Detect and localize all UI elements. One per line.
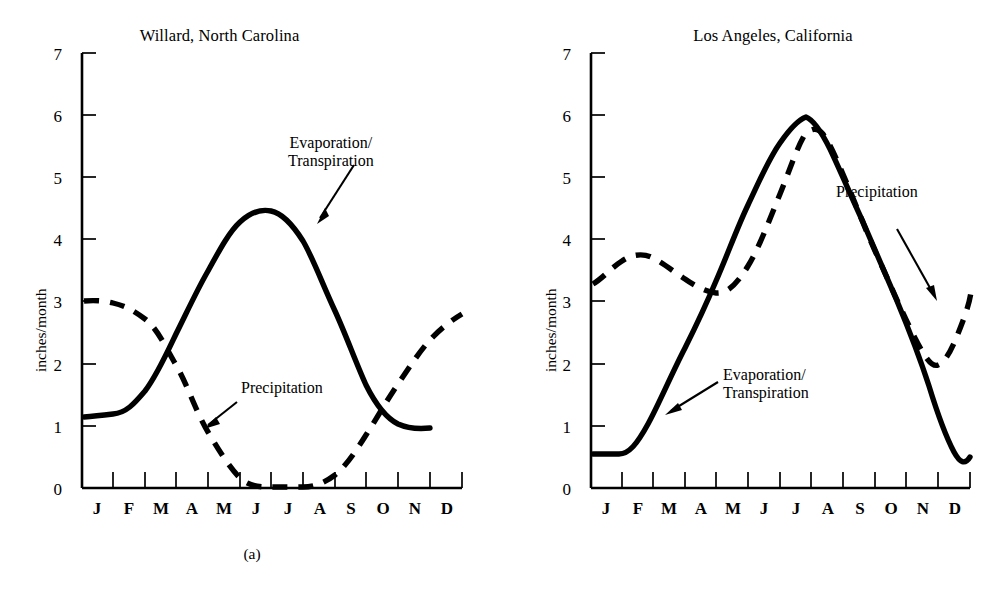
panel-b-xtick-dec: D bbox=[944, 500, 966, 517]
panel-a-xtick-jun: J bbox=[245, 500, 267, 517]
panel-b-ytick-5: 5 bbox=[549, 170, 571, 187]
panel-b-ytick-1: 1 bbox=[549, 419, 571, 436]
panel-a-precipitation-label: Precipitation bbox=[241, 379, 323, 397]
panel-b-x-ticks bbox=[622, 472, 970, 488]
panel-b-ytick-0: 0 bbox=[549, 481, 571, 498]
panel-b-xtick-oct: O bbox=[880, 500, 902, 517]
panel-b-ytick-2: 2 bbox=[549, 357, 571, 374]
panel-b-xtick-mar: M bbox=[658, 500, 680, 517]
panel-b-xtick-nov: N bbox=[912, 500, 934, 517]
panel-b-ytick-6: 6 bbox=[549, 108, 571, 125]
panel-a-ytick-1: 1 bbox=[40, 419, 62, 436]
panel-b-evapotranspiration-label: Evaporation/ Transpiration bbox=[723, 366, 809, 402]
chart-panel-b: Los Angeles, California bbox=[499, 0, 999, 596]
panel-a-x-ticks bbox=[113, 472, 462, 488]
panel-a-xtick-aug: A bbox=[309, 500, 331, 517]
chart-panel-a: Willard, North Carolina bbox=[0, 0, 499, 596]
panel-a-ytick-4: 4 bbox=[40, 232, 62, 249]
figure-root: Willard, North Carolina bbox=[0, 0, 999, 596]
panel-a-precipitation-arrow bbox=[204, 402, 237, 429]
panel-a-xtick-dec: D bbox=[436, 500, 458, 517]
panel-a-axes bbox=[82, 53, 462, 488]
panel-b-xtick-sep: S bbox=[849, 500, 871, 517]
panel-a-xtick-jan: J bbox=[86, 500, 108, 517]
panel-a-xtick-nov: N bbox=[404, 500, 426, 517]
panel-a-xtick-apr: A bbox=[181, 500, 203, 517]
panel-b-xtick-may: M bbox=[722, 500, 744, 517]
panel-b-xtick-apr: A bbox=[690, 500, 712, 517]
panel-b-ytick-7: 7 bbox=[549, 46, 571, 63]
panel-b-y-ticks bbox=[591, 53, 605, 488]
panel-a-xtick-may: M bbox=[213, 500, 235, 517]
panel-a-caption: (a) bbox=[232, 545, 272, 563]
panel-b-xtick-jun: J bbox=[753, 500, 775, 517]
panel-a-et-line2: Transpiration bbox=[288, 152, 374, 170]
panel-a-ytick-3: 3 bbox=[40, 294, 62, 311]
panel-b-precipitation-arrow bbox=[897, 229, 937, 301]
panel-a-xtick-mar: M bbox=[150, 500, 172, 517]
panel-a-xtick-jul: J bbox=[277, 500, 299, 517]
panel-a-ytick-6: 6 bbox=[40, 108, 62, 125]
panel-b-xtick-aug: A bbox=[817, 500, 839, 517]
panel-b-evapotranspiration-curve bbox=[593, 117, 970, 462]
panel-b-evapotranspiration-arrow bbox=[665, 382, 718, 415]
panel-b-xtick-feb: F bbox=[627, 500, 649, 517]
panel-a-ytick-7: 7 bbox=[40, 46, 62, 63]
panel-b-et-line2: Transpiration bbox=[723, 384, 809, 402]
panel-a-y-ticks bbox=[82, 53, 96, 488]
panel-b-precipitation-curve bbox=[593, 129, 971, 365]
panel-a-ytick-0: 0 bbox=[40, 481, 62, 498]
panel-a-et-line1: Evaporation/ bbox=[288, 134, 374, 152]
panel-a-evapotranspiration-arrow bbox=[317, 165, 354, 224]
panel-b-precipitation-label: Precipitation bbox=[836, 183, 918, 201]
panel-b-ytick-4: 4 bbox=[549, 232, 571, 249]
panel-b-xtick-jul: J bbox=[785, 500, 807, 517]
panel-b-et-line1: Evaporation/ bbox=[723, 366, 809, 384]
panel-a-evapotranspiration-label: Evaporation/ Transpiration bbox=[288, 134, 374, 170]
panel-a-ytick-2: 2 bbox=[40, 357, 62, 374]
panel-a-ytick-5: 5 bbox=[40, 170, 62, 187]
panel-a-xtick-feb: F bbox=[118, 500, 140, 517]
panel-b-xtick-jan: J bbox=[595, 500, 617, 517]
panel-b-ytick-3: 3 bbox=[549, 294, 571, 311]
panel-a-xtick-oct: O bbox=[372, 500, 394, 517]
panel-a-xtick-sep: S bbox=[340, 500, 362, 517]
